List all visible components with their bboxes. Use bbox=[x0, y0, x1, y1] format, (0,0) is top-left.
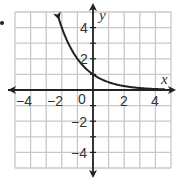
x-axis-label: x bbox=[160, 71, 168, 87]
y-axis-label: y bbox=[97, 7, 106, 23]
x-tick-4: 4 bbox=[151, 93, 159, 109]
y-tick-2: 2 bbox=[80, 51, 88, 67]
x-tick-neg4: −4 bbox=[16, 93, 32, 109]
coordinate-plane: y x 0 −4 −2 2 4 4 2 −2 −4 bbox=[0, 0, 176, 184]
x-tick-neg2: −2 bbox=[47, 93, 63, 109]
origin-label: 0 bbox=[78, 91, 86, 107]
x-tick-2: 2 bbox=[120, 93, 128, 109]
y-tick-neg2: −2 bbox=[71, 114, 87, 130]
y-tick-4: 4 bbox=[80, 20, 88, 36]
exponential-curve bbox=[59, 18, 165, 89]
y-tick-neg4: −4 bbox=[71, 145, 87, 161]
